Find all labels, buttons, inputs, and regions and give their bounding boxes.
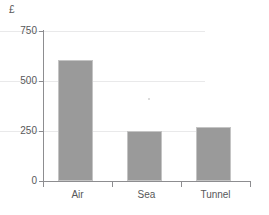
bar-air — [58, 60, 93, 181]
x-category-label-tunnel: Tunnel — [181, 189, 250, 201]
x-category-label-air: Air — [43, 189, 112, 201]
y-tick-label-500: 500 — [20, 76, 37, 86]
x-tick-mark-3 — [250, 182, 251, 187]
image-artifact-speck — [148, 98, 150, 100]
y-tick-label-0: 0 — [31, 176, 37, 186]
y-axis-unit-label: £ — [9, 4, 15, 16]
x-tick-mark-2 — [181, 182, 182, 187]
bar-tunnel — [196, 127, 231, 181]
bar-chart: £ 750 500 250 0 Air Sea Tunnel — [0, 0, 269, 215]
plot-area — [43, 31, 250, 181]
x-axis-line — [43, 181, 251, 182]
y-tick-label-750: 750 — [20, 26, 37, 36]
bar-sea — [127, 131, 162, 181]
x-category-label-sea: Sea — [112, 189, 181, 201]
x-tick-mark-1 — [112, 182, 113, 187]
x-tick-mark-0 — [43, 182, 44, 187]
y-tick-label-250: 250 — [20, 126, 37, 136]
